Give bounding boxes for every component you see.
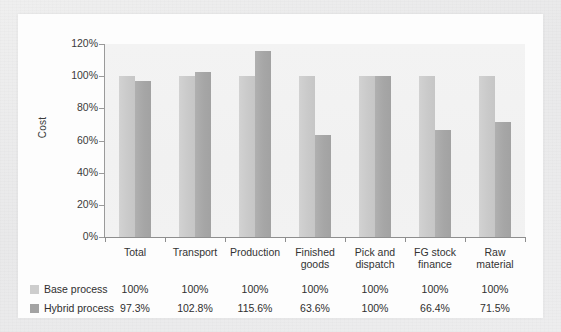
y-axis-tick-mark: [99, 141, 104, 142]
table-row-hybrid-process: Hybrid process 97.3%102.8%115.6%63.6%100…: [18, 299, 543, 318]
x-axis-category-labels: TotalTransportProductionFinishedgoodsPic…: [18, 246, 543, 280]
bar-base-3: [299, 76, 315, 237]
x-axis-line: [104, 237, 525, 238]
y-axis-tick-label: 120%: [56, 38, 98, 49]
x-axis-tick-mark: [285, 237, 286, 242]
table-cell-value: 100%: [459, 283, 531, 295]
x-axis-tick-mark: [465, 237, 466, 242]
bar-base-5: [419, 76, 435, 237]
y-axis-tick-label: 60%: [56, 135, 98, 146]
x-axis-tick-mark: [225, 237, 226, 242]
y-axis-tick-label: 40%: [56, 167, 98, 178]
y-axis-tick-labels: 120%100%80%60%40%20%0%: [46, 14, 98, 254]
y-axis-tick-mark: [99, 173, 104, 174]
bar-hybrid-1: [195, 72, 211, 237]
y-axis-tick-label: 20%: [56, 199, 98, 210]
table-row-base-process: Base process 100%100%100%100%100%100%100…: [18, 280, 543, 299]
y-axis-tick-mark: [99, 76, 104, 77]
x-axis-category-label: Rawmaterial: [459, 246, 531, 270]
legend-swatch-hybrid-process: [30, 304, 39, 313]
y-axis-tick-label: 80%: [56, 102, 98, 113]
x-axis-category-label-line: material: [459, 258, 531, 270]
bar-base-2: [239, 76, 255, 237]
x-axis-tick-mark: [345, 237, 346, 242]
y-axis-tick-mark: [99, 44, 104, 45]
x-axis-tick-mark: [105, 237, 106, 242]
table-cell-value: 71.5%: [459, 302, 531, 314]
x-axis-tick-mark: [525, 237, 526, 242]
bar-base-0: [119, 76, 135, 237]
bar-hybrid-4: [375, 76, 391, 237]
bar-base-6: [479, 76, 495, 237]
figure-card: Cost 120%100%80%60%40%20%0% TotalTranspo…: [18, 14, 543, 318]
x-axis-tick-mark: [405, 237, 406, 242]
y-axis-tick-label: 100%: [56, 70, 98, 81]
x-axis-category-label-line: Raw: [459, 246, 531, 258]
y-axis-tick-mark: [99, 205, 104, 206]
y-axis-tick-label: 0%: [56, 231, 98, 242]
bar-chart: Cost 120%100%80%60%40%20%0% TotalTranspo…: [18, 14, 543, 254]
bar-hybrid-3: [315, 135, 331, 237]
legend-swatch-base-process: [30, 285, 39, 294]
y-axis-tick-mark: [99, 237, 104, 238]
bar-hybrid-5: [435, 130, 451, 237]
bar-hybrid-2: [255, 51, 271, 237]
chart-data-table: Base process 100%100%100%100%100%100%100…: [18, 280, 543, 318]
bar-hybrid-0: [135, 81, 151, 237]
scanned-page-background: Cost 120%100%80%60%40%20%0% TotalTranspo…: [0, 0, 561, 332]
bar-base-4: [359, 76, 375, 237]
y-axis-tick-mark: [99, 108, 104, 109]
bar-base-1: [179, 76, 195, 237]
x-axis-tick-mark: [165, 237, 166, 242]
plot-area: [105, 44, 525, 237]
bar-hybrid-6: [495, 122, 511, 237]
